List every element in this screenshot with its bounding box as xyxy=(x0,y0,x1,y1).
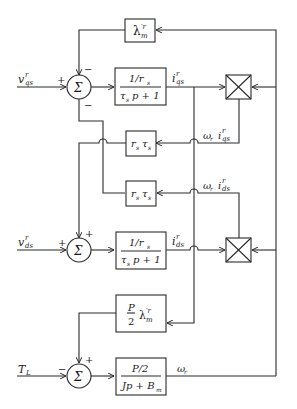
svg-text:r: r xyxy=(210,185,214,192)
iqs-to-torque-path xyxy=(167,87,194,323)
summer-m: Σ − + xyxy=(58,354,93,388)
wr-ids-path: ω r i r ds xyxy=(157,177,239,238)
wr-signal: ω r xyxy=(166,363,276,376)
sigma-symbol: Σ xyxy=(73,81,83,95)
svg-text:+: + xyxy=(85,354,93,365)
svg-text:+: + xyxy=(58,237,66,248)
svg-text:r: r xyxy=(222,177,226,185)
svg-text:p + 1: p + 1 xyxy=(133,254,161,265)
summer-d: Σ + + xyxy=(58,228,93,262)
svg-text:−: − xyxy=(58,364,66,375)
svg-text:s: s xyxy=(127,260,130,267)
svg-text:1/r: 1/r xyxy=(129,73,145,84)
svg-text:ds: ds xyxy=(25,242,33,250)
svg-text:r: r xyxy=(25,234,29,242)
svg-text:m: m xyxy=(141,32,148,40)
svg-text:i: i xyxy=(172,72,176,85)
svg-text:′r: ′r xyxy=(146,307,152,315)
svg-text:1/r: 1/r xyxy=(129,237,145,248)
svg-text:′r: ′r xyxy=(141,23,147,31)
iqs-signal: i r qs xyxy=(166,70,225,87)
svg-text:s: s xyxy=(147,243,150,250)
svg-text:r: r xyxy=(210,135,214,142)
svg-text:i: i xyxy=(218,130,221,141)
svg-text:r: r xyxy=(176,233,180,241)
wr-iqs-path: ω r i r qs xyxy=(156,99,239,143)
svg-text:P: P xyxy=(127,302,135,313)
svg-text:p + 1: p + 1 xyxy=(132,90,160,101)
svg-text:ds: ds xyxy=(222,185,230,193)
svg-text:L: L xyxy=(25,369,31,377)
svg-text:r: r xyxy=(176,70,180,78)
svg-text:s: s xyxy=(126,96,129,103)
svg-text:λ: λ xyxy=(139,309,146,322)
ids-signal: i r ds xyxy=(166,233,225,250)
svg-text:v: v xyxy=(18,73,25,86)
svg-text:P/2: P/2 xyxy=(131,363,148,374)
sigma-symbol: Σ xyxy=(73,244,83,258)
svg-text:s: s xyxy=(136,144,139,151)
svg-text:qs: qs xyxy=(25,79,33,87)
svg-text:+: + xyxy=(57,74,65,85)
rs-taus-upper-block: r s τ s xyxy=(126,131,156,156)
rs-taus-lower-block: r s τ s xyxy=(126,181,156,206)
torque-block: P 2 λ ′r m xyxy=(116,295,166,332)
svg-text:Jp + B: Jp + B xyxy=(120,380,155,391)
svg-text:ds: ds xyxy=(176,241,184,249)
svg-text:r: r xyxy=(222,127,226,135)
mech-block: P/2 Jp + B m xyxy=(116,358,166,395)
multiplier-q xyxy=(226,75,251,99)
svg-text:s: s xyxy=(148,144,151,151)
svg-text:i: i xyxy=(218,180,221,191)
svg-text:2: 2 xyxy=(128,316,134,327)
svg-text:r: r xyxy=(25,71,29,79)
sigma-symbol: Σ xyxy=(73,370,83,384)
svg-text:+: + xyxy=(85,228,93,239)
svg-text:−: − xyxy=(84,64,92,75)
tf-q-block: 1/r s τ s p + 1 xyxy=(115,68,166,105)
svg-text:m: m xyxy=(156,386,162,393)
svg-text:r: r xyxy=(184,368,188,375)
sum-q-bottom-feedback xyxy=(79,99,125,193)
multiplier-d xyxy=(226,238,251,262)
svg-text:−: − xyxy=(84,100,92,111)
lambda-symbol: λ xyxy=(133,24,141,38)
tf-d-block: 1/r s τ s p + 1 xyxy=(116,232,166,269)
svg-text:v: v xyxy=(18,236,25,249)
block-diagram: λ ′r m v r qs Σ + − − 1/r s τ s p + 1 i … xyxy=(0,0,297,409)
svg-text:qs: qs xyxy=(176,78,184,86)
svg-text:s: s xyxy=(147,79,150,86)
svg-text:s: s xyxy=(136,194,139,201)
lambda-block: λ ′r m xyxy=(125,19,155,42)
svg-text:s: s xyxy=(148,194,151,201)
svg-text:qs: qs xyxy=(222,135,230,143)
svg-text:m: m xyxy=(146,316,153,324)
svg-text:i: i xyxy=(172,235,176,248)
